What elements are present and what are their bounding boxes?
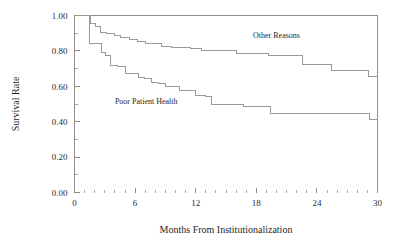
y-tick-label: 1.00 — [52, 11, 68, 21]
x-axis-minor-tick-marks — [85, 190, 368, 193]
y-tick-label: 0.60 — [52, 82, 68, 92]
y-tick-label: 0.80 — [52, 46, 68, 56]
survival-chart-figure: 0.000.200.400.600.801.00 0612182430 Othe… — [0, 0, 394, 243]
series-inline-labels: Other ReasonsPoor Patient Health — [115, 31, 300, 106]
x-tick-label: 12 — [191, 198, 200, 208]
x-axis-tick-labels: 0612182430 — [72, 198, 382, 208]
x-axis-title: Months From Institutionalization — [160, 224, 293, 235]
x-tick-label: 18 — [252, 198, 262, 208]
x-tick-label: 24 — [312, 198, 322, 208]
y-tick-label: 0.40 — [52, 117, 68, 127]
y-axis-tick-labels: 0.000.200.400.600.801.00 — [52, 11, 68, 198]
y-tick-label: 0.00 — [52, 188, 68, 198]
x-tick-label: 6 — [133, 198, 138, 208]
x-tick-label: 0 — [72, 198, 77, 208]
curve-label-poor-patient-health: Poor Patient Health — [115, 97, 178, 106]
y-axis-title: Survival Rate — [10, 76, 21, 131]
survival-curve-other-reasons — [75, 16, 378, 77]
y-tick-label: 0.20 — [52, 152, 68, 162]
survival-plot-svg: 0.000.200.400.600.801.00 0612182430 Othe… — [0, 0, 394, 243]
x-tick-label: 30 — [373, 198, 383, 208]
curve-label-other-reasons: Other Reasons — [253, 31, 300, 40]
